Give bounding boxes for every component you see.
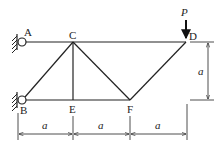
- dim-label-3: a: [155, 119, 161, 131]
- node-label-d: D: [189, 30, 197, 42]
- member-cf: [73, 42, 130, 100]
- node-label-c: C: [69, 29, 76, 41]
- node-label-a: A: [24, 26, 32, 38]
- vertical-dimension: a: [190, 42, 214, 100]
- truss-diagram: P A C D B E F a a a a: [0, 0, 220, 149]
- horizontal-dimension: a a a: [18, 104, 187, 140]
- dim-label-2: a: [98, 119, 104, 131]
- support-a-icon: [12, 34, 17, 53]
- node-label-b: B: [20, 104, 27, 116]
- truss-members: [25, 42, 186, 100]
- pin-b-icon: [18, 96, 26, 104]
- node-label-e: E: [69, 103, 76, 115]
- dim-label-1: a: [42, 119, 48, 131]
- vertical-dim-label: a: [198, 65, 204, 77]
- pin-a-icon: [18, 38, 26, 46]
- node-label-f: F: [127, 103, 133, 115]
- member-bc: [25, 42, 73, 97]
- load-label: P: [180, 6, 188, 18]
- member-fd: [130, 42, 186, 100]
- support-b-icon: [12, 92, 17, 111]
